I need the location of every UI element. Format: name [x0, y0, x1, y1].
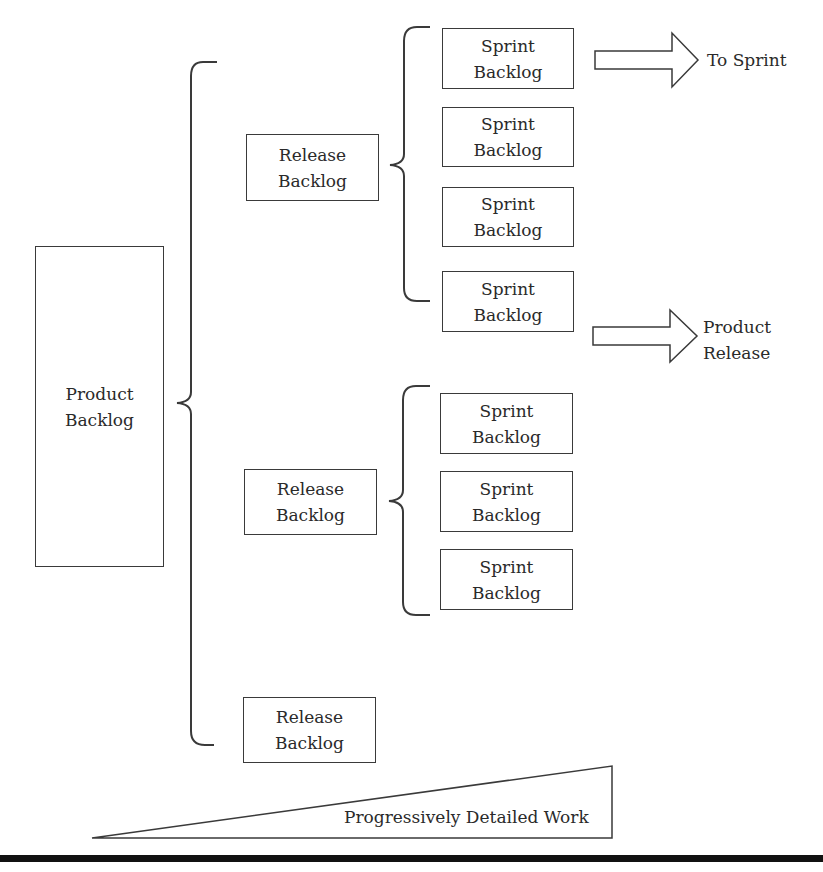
sprint-backlog-line1: Sprint: [480, 476, 534, 502]
sprint-backlog-line2: Backlog: [473, 302, 542, 328]
release-backlog-line2: Backlog: [275, 730, 344, 756]
sprint-backlog-line2: Backlog: [472, 502, 541, 528]
product-backlog-line2: Backlog: [65, 407, 134, 433]
to-sprint-label: To Sprint: [707, 47, 787, 73]
release-backlog-box-3: Release Backlog: [243, 697, 376, 763]
product-release-line2: Release: [703, 340, 771, 366]
sprint-backlog-line2: Backlog: [473, 59, 542, 85]
product-release-label: Product Release: [703, 314, 771, 366]
release-backlog-line1: Release: [277, 476, 344, 502]
product-release-arrow-icon: [593, 310, 697, 362]
progressively-detailed-work-label: Progressively Detailed Work: [344, 806, 589, 828]
release-backlog-line2: Backlog: [278, 168, 347, 194]
to-sprint-arrow-icon: [595, 33, 698, 87]
sprint-backlog-line1: Sprint: [481, 33, 535, 59]
sprint-backlog-line1: Sprint: [480, 398, 534, 424]
bottom-rule: [0, 855, 823, 862]
sprint-backlog-line2: Backlog: [472, 424, 541, 450]
sprint-backlog-line2: Backlog: [472, 580, 541, 606]
sprint-backlog-line1: Sprint: [481, 276, 535, 302]
sprint-backlog-line1: Sprint: [481, 191, 535, 217]
release-backlog-line1: Release: [276, 704, 343, 730]
release-backlog-line2: Backlog: [276, 502, 345, 528]
release-backlog-line1: Release: [279, 142, 346, 168]
release-backlog-box-1: Release Backlog: [246, 134, 379, 201]
release-backlog-box-2: Release Backlog: [244, 469, 377, 535]
product-backlog-box: Product Backlog: [35, 246, 164, 567]
product-brace: [177, 62, 217, 745]
sprint-backlog-box-1-2: Sprint Backlog: [442, 107, 574, 167]
sprint-backlog-box-1-3: Sprint Backlog: [442, 187, 574, 247]
sprint-backlog-box-2-2: Sprint Backlog: [440, 471, 573, 532]
sprint-backlog-line1: Sprint: [481, 111, 535, 137]
sprint-backlog-box-1-1: Sprint Backlog: [442, 28, 574, 89]
sprint-backlog-box-2-3: Sprint Backlog: [440, 549, 573, 610]
sprint-backlog-line2: Backlog: [473, 217, 542, 243]
sprint-backlog-line1: Sprint: [480, 554, 534, 580]
sprint-backlog-box-2-1: Sprint Backlog: [440, 393, 573, 454]
product-backlog-line1: Product: [66, 381, 134, 407]
release1-brace: [390, 27, 430, 301]
release2-brace: [389, 386, 430, 615]
sprint-backlog-line2: Backlog: [473, 137, 542, 163]
sprint-backlog-box-1-4: Sprint Backlog: [442, 271, 574, 332]
product-release-line1: Product: [703, 314, 771, 340]
